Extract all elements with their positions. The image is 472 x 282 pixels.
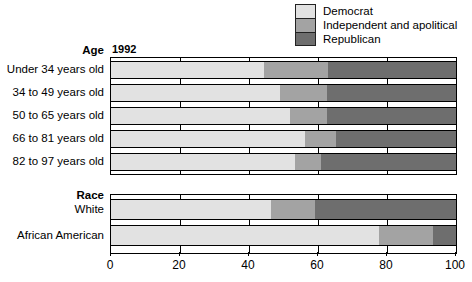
x-tick-label: 0 [90, 258, 130, 272]
category-label: White [0, 203, 104, 215]
category-label: 34 to 49 years old [0, 86, 104, 98]
bar-segment-independent-and-apolitical [305, 131, 336, 147]
group-header-race: Race [0, 189, 104, 201]
category-label: African American [0, 229, 104, 241]
legend-swatch-republican [295, 32, 316, 46]
x-tick-mark [179, 252, 180, 256]
bar-50-to-65-years-old[interactable] [111, 107, 456, 125]
bar-segment-republican [433, 226, 456, 245]
group-header-age: Age [0, 44, 104, 56]
x-tick-mark [455, 252, 456, 256]
x-tick-label: 60 [297, 258, 337, 272]
category-label: Under 34 years old [0, 63, 104, 75]
bar-segment-democrat [111, 200, 271, 219]
legend-item-democrat: Democrat [295, 4, 457, 18]
x-tick-label: 40 [228, 258, 268, 272]
x-tick-mark [317, 252, 318, 256]
legend-item-republican: Republican [295, 32, 457, 46]
legend-label-republican: Republican [323, 32, 381, 46]
category-label: 66 to 81 years old [0, 132, 104, 144]
bar-segment-democrat [111, 108, 290, 124]
bar-segment-republican [328, 62, 456, 78]
legend-swatch-independent [295, 18, 316, 32]
category-label: 50 to 65 years old [0, 109, 104, 121]
bar-segment-republican [336, 131, 456, 147]
bar-segment-independent-and-apolitical [290, 108, 327, 124]
bar-segment-republican [327, 108, 456, 124]
category-label: 82 to 97 years old [0, 155, 104, 167]
x-tick-mark [386, 252, 387, 256]
bar-82-to-97-years-old[interactable] [111, 153, 456, 171]
bar-african-american[interactable] [111, 225, 456, 246]
bar-segment-independent-and-apolitical [264, 62, 328, 78]
bar-66-to-81-years-old[interactable] [111, 130, 456, 148]
bar-segment-democrat [111, 131, 305, 147]
bar-segment-independent-and-apolitical [295, 154, 321, 170]
bar-segment-independent-and-apolitical [271, 200, 315, 219]
legend-swatch-democrat [295, 4, 316, 18]
bar-segment-democrat [111, 62, 264, 78]
bar-segment-democrat [111, 85, 280, 101]
legend-item-independent: Independent and apolitical [295, 18, 457, 32]
bar-segment-republican [321, 154, 456, 170]
bar-segment-republican [315, 200, 456, 219]
chart-legend: Democrat Independent and apolitical Repu… [295, 4, 457, 46]
x-tick-mark [110, 252, 111, 256]
bar-segment-independent-and-apolitical [379, 226, 434, 245]
bar-34-to-49-years-old[interactable] [111, 84, 456, 102]
bar-segment-republican [327, 85, 456, 101]
race-panel [110, 194, 457, 254]
bar-segment-democrat [111, 226, 379, 245]
x-tick-mark [248, 252, 249, 256]
bar-white[interactable] [111, 199, 456, 220]
age-panel [110, 57, 457, 175]
chart-root: Democrat Independent and apolitical Repu… [0, 0, 472, 282]
bar-segment-democrat [111, 154, 295, 170]
x-tick-label: 20 [159, 258, 199, 272]
legend-label-independent: Independent and apolitical [323, 18, 457, 32]
x-tick-label: 100 [435, 258, 472, 272]
year-label: 1992 [112, 43, 136, 55]
x-tick-label: 80 [366, 258, 406, 272]
bar-under-34-years-old[interactable] [111, 61, 456, 79]
bar-segment-independent-and-apolitical [280, 85, 327, 101]
legend-label-democrat: Democrat [323, 4, 373, 18]
